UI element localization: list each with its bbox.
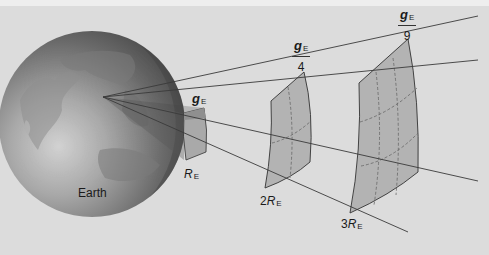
diagram-canvas: Earth gE RE gE 4 2RE gE 9 3RE — [0, 0, 489, 255]
patch-at-3RE — [350, 39, 418, 213]
field-label-3RE: gE 9 — [398, 5, 416, 43]
earth-label: Earth — [78, 187, 107, 199]
patch-at-2RE — [265, 72, 311, 188]
distance-label-2RE: 2RE — [260, 195, 282, 208]
radius-symbol: R — [184, 167, 193, 181]
distance-label-RE: RE — [184, 168, 199, 181]
field-symbol: g — [294, 38, 302, 53]
field-symbol: g — [400, 7, 408, 22]
field-denominator: 4 — [292, 57, 310, 74]
field-label-RE: gE — [192, 92, 206, 106]
radius-subscript: E — [194, 172, 199, 181]
distance-label-3RE: 3RE — [341, 218, 363, 231]
field-symbol: g — [192, 91, 200, 106]
field-label-2RE: gE 4 — [292, 36, 310, 74]
field-denominator: 9 — [398, 26, 416, 43]
field-subscript: E — [201, 97, 206, 106]
